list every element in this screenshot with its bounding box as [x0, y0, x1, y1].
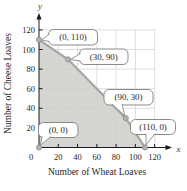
figure: xy02040608010012020406080100120(0, 110)(…: [0, 0, 187, 191]
x-tick-label: 100: [129, 152, 142, 162]
callout-label: (110, 0): [139, 122, 167, 132]
y-axis-symbol: y: [37, 1, 42, 11]
y-axis-title: Number of Cheese Loaves: [3, 9, 16, 159]
y-tick-label: 100: [22, 45, 35, 55]
x-tick-label: 80: [112, 152, 121, 162]
callout-tail: [42, 34, 50, 42]
y-axis-arrow-icon: [36, 13, 41, 20]
callout-label: (90, 30): [115, 92, 143, 102]
y-tick-label: 60: [27, 84, 36, 94]
vertex-point: [36, 37, 41, 42]
vertex-point: [142, 145, 147, 150]
y-tick-label: 40: [27, 103, 36, 113]
callout-label: (0, 110): [59, 32, 87, 42]
vertex-point: [36, 145, 41, 150]
callout-tail: [71, 54, 81, 62]
x-tick-label: 40: [73, 152, 82, 162]
callout-tail: [146, 134, 155, 146]
x-tick-label: 20: [54, 152, 63, 162]
chart-canvas: xy02040608010012020406080100120(0, 110)(…: [0, 0, 187, 191]
x-axis-symbol: x: [176, 144, 181, 154]
y-tick-label: 120: [22, 25, 35, 35]
callout-label: (0, 0): [49, 125, 68, 135]
y-tick-label: 80: [27, 64, 36, 74]
x-axis-title: Number of Wheat Loaves: [20, 167, 174, 177]
vertex-point: [123, 116, 128, 121]
callout-label: (30, 90): [90, 52, 118, 62]
vertex-point: [65, 57, 70, 62]
x-tick-label: 60: [93, 152, 102, 162]
x-tick-label: 120: [148, 152, 161, 162]
x-axis-arrow-icon: [166, 145, 173, 150]
x-tick-label: 0: [29, 152, 33, 162]
y-tick-label: 20: [27, 123, 36, 133]
